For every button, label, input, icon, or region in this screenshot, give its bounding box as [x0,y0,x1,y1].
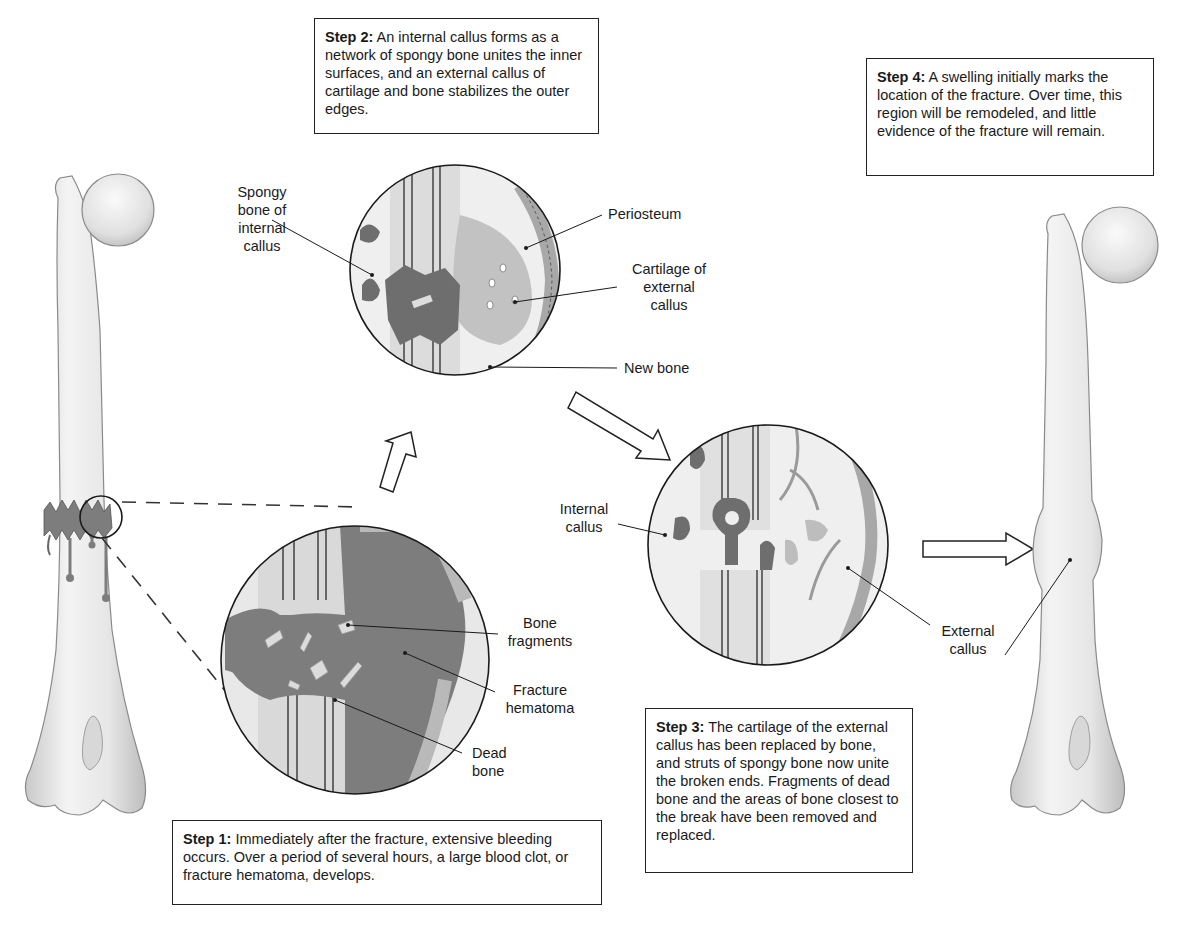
step-1-caption: Step 1: Immediately after the fracture, … [172,820,602,905]
step-2-heading: Step 2: [325,29,373,45]
step-3-caption: Step 3: The cartilage of the external ca… [645,708,913,873]
zoom-dashed-line-bottom [102,538,226,692]
step-1-text: Immediately after the fracture, extensiv… [183,831,568,883]
label-new-bone: New bone [624,359,689,377]
step-4-heading: Step 4: [877,69,925,85]
step-3-heading: Step 3: [656,719,704,735]
label-periosteum: Periosteum [608,205,681,223]
label-cartilage-of-external-callus: Cartilage of external callus [614,260,724,314]
arrow-step1-to-step2 [380,432,416,492]
label-dead-bone: Dead bone [472,744,507,780]
step1-detail-circle [220,525,498,800]
label-external-callus: External callus [928,622,1008,658]
label-fracture-hematoma: Fracture hematoma [495,681,585,717]
step-3-text: The cartilage of the external callus has… [656,719,899,843]
fractured-humerus [25,174,154,815]
label-bone-fragments: Bone fragments [500,614,580,650]
step-2-caption: Step 2: An internal callus forms as a ne… [314,18,599,134]
step-1-heading: Step 1: [183,831,231,847]
label-spongy-bone-of-internal-callus: Spongy bone of internal callus [222,183,302,255]
healed-humerus [1005,207,1158,815]
step-4-caption: Step 4: A swelling initially marks the l… [866,58,1154,176]
arrow-step3-to-step4 [923,533,1033,565]
arrow-step2-to-step3 [568,392,670,460]
step2-detail-circle [272,160,617,380]
zoom-dashed-line-top [122,502,360,507]
label-internal-callus: Internal callus [548,500,620,536]
